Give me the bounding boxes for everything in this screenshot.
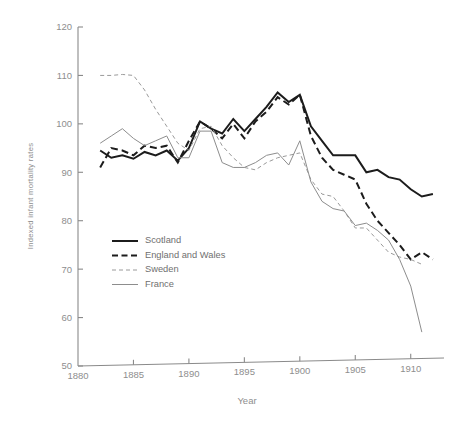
y-tick-label: 110	[57, 70, 72, 81]
series-line-france	[100, 129, 422, 332]
series-group	[100, 74, 433, 332]
x-tick-label: 1880	[67, 370, 88, 381]
series-line-scotland	[100, 92, 433, 196]
x-tick-label: 1905	[345, 364, 366, 375]
line-chart: 5060708090100110120 18801885189018951900…	[0, 0, 453, 425]
y-tick-label: 80	[61, 215, 72, 226]
y-axis: 5060708090100110120	[56, 21, 83, 371]
x-axis-title: Year	[237, 395, 256, 406]
x-axis-line	[78, 358, 444, 366]
x-tick-label: 1890	[178, 368, 199, 379]
chart-container: 5060708090100110120 18801885189018951900…	[0, 0, 453, 425]
x-tick-group: 1880188518901895190019051910	[67, 354, 421, 381]
x-tick-label: 1900	[289, 365, 310, 376]
y-tick-label: 60	[61, 312, 72, 323]
legend-label: England and Wales	[145, 250, 226, 260]
x-tick-label: 1895	[234, 366, 255, 377]
chart-legend: ScotlandEngland and WalesSwedenFrance	[112, 235, 226, 289]
y-tick-label: 90	[61, 167, 72, 178]
legend-label: Scotland	[145, 235, 181, 245]
y-tick-label: 70	[61, 264, 72, 275]
y-tick-label: 120	[56, 21, 72, 32]
legend-label: Sweden	[145, 264, 179, 274]
x-tick-label: 1910	[400, 363, 421, 374]
y-axis-title: Indexed infant mortality rates	[26, 143, 35, 250]
x-axis: 1880188518901895190019051910	[67, 354, 444, 381]
y-tick-label: 100	[56, 118, 72, 129]
y-tick-group: 5060708090100110120	[56, 21, 83, 371]
x-tick-label: 1885	[123, 369, 144, 380]
legend-label: France	[145, 279, 174, 289]
